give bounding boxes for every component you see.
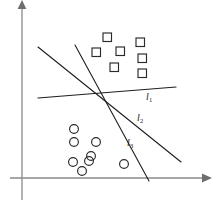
square-markers-group: [92, 33, 147, 78]
data-point-square: [136, 38, 145, 47]
data-point-circle: [120, 160, 129, 169]
data-point-circle: [87, 152, 96, 161]
axes-group: [10, 0, 212, 200]
data-point-square: [110, 63, 119, 72]
classifier-diagram: l1 l2 l3: [0, 0, 216, 209]
boundary-label-l3: l3: [127, 138, 133, 148]
data-point-square: [92, 48, 101, 57]
data-point-circle: [70, 138, 79, 147]
boundary-line-l1: [38, 87, 176, 98]
data-point-square: [103, 33, 112, 42]
diagram-canvas: [0, 0, 216, 209]
vertical-axis-arrow-icon: [18, 0, 27, 9]
data-point-square: [138, 69, 147, 78]
data-point-circle: [69, 158, 78, 167]
data-point-circle: [85, 157, 94, 166]
data-point-square: [138, 54, 147, 63]
boundary-label-l1: l1: [146, 92, 152, 102]
data-point-circle: [78, 167, 87, 176]
boundary-label-l2: l2: [137, 113, 143, 123]
circle-markers-group: [69, 125, 129, 176]
horizontal-axis-arrow-icon: [202, 174, 212, 183]
data-point-square: [116, 47, 125, 56]
data-point-circle: [70, 125, 79, 134]
data-point-circle: [92, 138, 101, 147]
